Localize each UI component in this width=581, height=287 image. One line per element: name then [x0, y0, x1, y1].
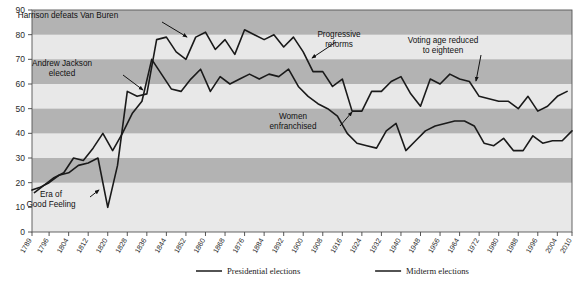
- y-tick-label-20: 20: [16, 178, 26, 188]
- annotation-label-harrison-line-0: Harrison defeats Van Buren: [18, 11, 119, 20]
- y-tick-label-30: 30: [16, 153, 26, 163]
- annotation-label-women-enfranchised-line-1: enfranchised: [270, 122, 317, 131]
- annotation-label-progressive-reforms-line-0: Progressive: [317, 30, 361, 39]
- background-bands: [32, 10, 572, 232]
- annotation-label-progressive-reforms-line-1: reforms: [325, 40, 353, 49]
- y-tick-label-50: 50: [16, 104, 26, 114]
- legend-label-1: Midterm elections: [406, 266, 469, 276]
- x-axis-labels: 1789179618041812182018281836184418521860…: [18, 237, 574, 255]
- voter-turnout-chart: 0102030405060708090 17891796180418121820…: [0, 0, 581, 287]
- y-tick-label-10: 10: [16, 202, 26, 212]
- y-tick-label-60: 60: [16, 79, 26, 89]
- annotation-label-voting-age-line-0: Voting age reduced: [408, 36, 479, 45]
- y-tick-label-70: 70: [16, 54, 26, 64]
- y-tick-label-0: 0: [20, 227, 25, 237]
- band-20-30: [32, 158, 572, 183]
- annotation-label-voting-age-line-1: to eighteen: [423, 46, 464, 55]
- annotation-label-jackson-line-1: elected: [49, 69, 76, 78]
- annotation-label-women-enfranchised-line-0: Women: [279, 112, 308, 121]
- annotation-label-jackson-line-0: Andrew Jackson: [32, 59, 93, 68]
- y-tick-label-80: 80: [16, 30, 26, 40]
- annotation-label-era-good-feeling-line-0: Era of: [40, 190, 63, 199]
- y-tick-label-40: 40: [16, 128, 26, 138]
- legend-label-0: Presidential elections: [227, 266, 301, 276]
- band-60-70: [32, 59, 572, 84]
- annotation-label-era-good-feeling-line-1: Good Feeling: [26, 200, 76, 209]
- chart-canvas: 0102030405060708090 17891796180418121820…: [0, 0, 581, 287]
